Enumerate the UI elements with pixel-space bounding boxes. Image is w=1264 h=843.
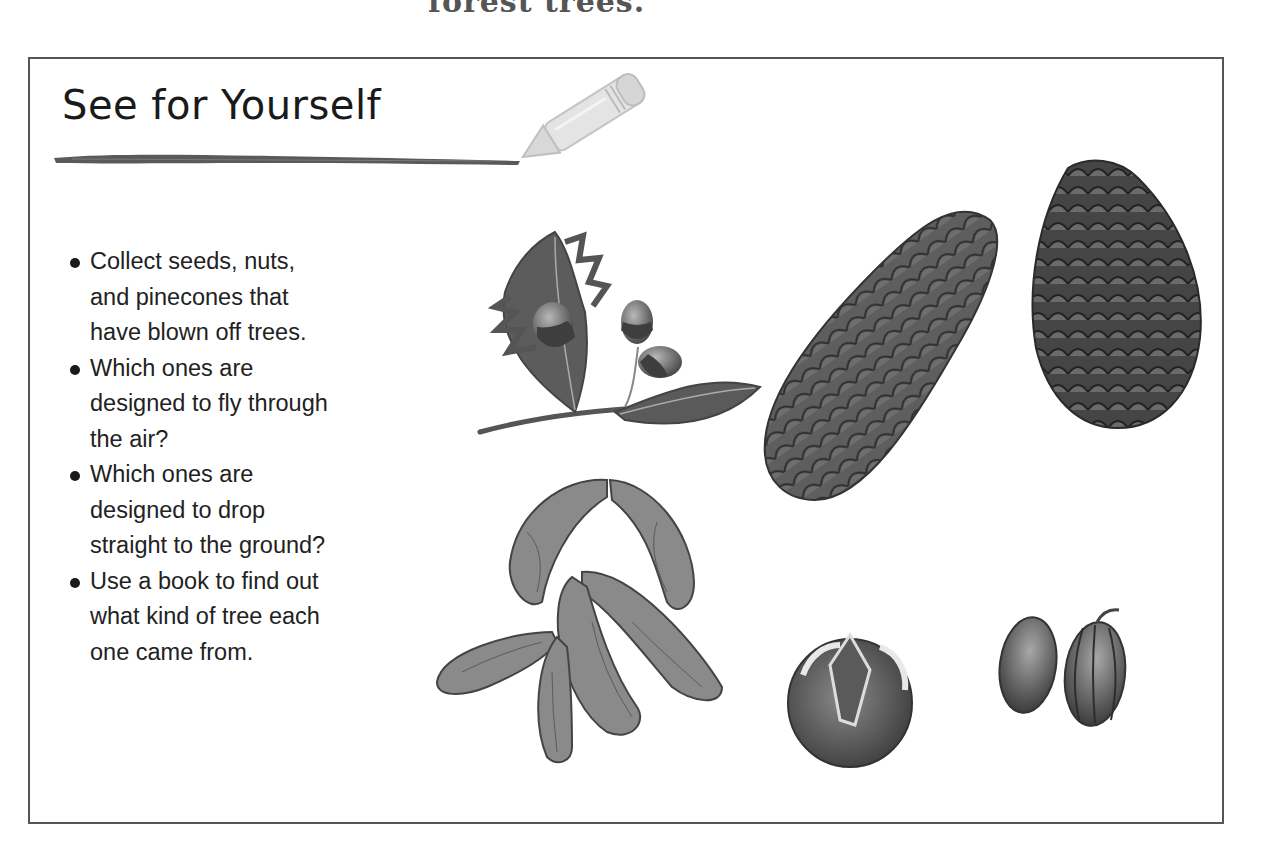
pair-of-seeds-illustration xyxy=(995,600,1130,730)
line: have blown off trees. xyxy=(90,319,306,345)
line: one came from. xyxy=(90,639,253,665)
line: Use a book to find out xyxy=(90,568,319,594)
line: Which ones are xyxy=(90,461,253,487)
instruction-item: Which ones are designed to fly through t… xyxy=(70,351,410,458)
line: Collect seeds, nuts, xyxy=(90,248,295,274)
instruction-item: Use a book to find out what kind of tree… xyxy=(70,564,410,671)
line: straight to the ground? xyxy=(90,532,325,558)
bullet-icon xyxy=(70,365,80,375)
bullet-icon xyxy=(70,258,80,268)
line: the air? xyxy=(90,426,168,452)
pine-cone-illustration xyxy=(1028,158,1206,430)
line: and pinecones that xyxy=(90,284,289,310)
oak-leaves-acorns-illustration xyxy=(475,222,765,442)
line: what kind of tree each xyxy=(90,603,320,629)
maple-seeds-illustration xyxy=(432,472,732,767)
line: designed to drop xyxy=(90,497,265,523)
line: Which ones are xyxy=(90,355,253,381)
split-husk-nut-illustration xyxy=(785,625,920,770)
instruction-item: Collect seeds, nuts, and pinecones that … xyxy=(70,244,410,351)
instruction-item: Which ones are designed to drop straight… xyxy=(70,457,410,564)
cut-off-heading-text: forest trees. xyxy=(428,0,645,19)
bullet-icon xyxy=(70,578,80,588)
pencil-icon xyxy=(505,62,670,167)
panel-title: See for Yourself xyxy=(62,82,381,128)
brush-stroke-underline xyxy=(52,150,522,168)
line: designed to fly through xyxy=(90,390,328,416)
spruce-cone-illustration xyxy=(755,200,1005,505)
bullet-icon xyxy=(70,471,80,481)
instruction-list: Collect seeds, nuts, and pinecones that … xyxy=(70,244,410,670)
